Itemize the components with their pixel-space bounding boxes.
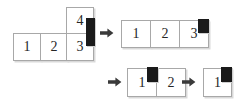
step-1-cell-2: 2 xyxy=(40,33,68,61)
arrow-1-right-arrow-icon xyxy=(100,27,114,39)
arrow-3-right-arrow-icon xyxy=(182,76,196,88)
cell-label: 1 xyxy=(122,27,150,41)
cell-label: 2 xyxy=(157,76,185,90)
step-2-cell-1: 1 xyxy=(121,20,151,48)
step-4-marker-square xyxy=(221,67,232,82)
step-1-marker-bar xyxy=(86,18,95,46)
arrow-2-right-arrow-icon xyxy=(108,76,122,88)
step-1-cell-1: 1 xyxy=(13,33,41,61)
diagram-canvas: 4 1 2 3 1 2 3 xyxy=(0,0,238,112)
step-3-marker-square xyxy=(147,67,158,82)
step-2-cell-2: 2 xyxy=(150,20,180,48)
cell-label: 2 xyxy=(41,40,67,54)
step-2-marker-square xyxy=(198,19,209,33)
cell-label: 1 xyxy=(14,40,40,54)
cell-label: 2 xyxy=(151,27,179,41)
